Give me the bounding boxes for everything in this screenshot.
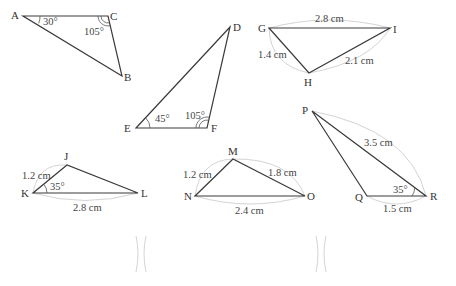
side-label-mo: 1.8 cm <box>268 167 297 178</box>
vertex-label-g: G <box>258 22 266 34</box>
vertex-label-p: P <box>302 104 308 116</box>
triangle-mno: M N O 1.2 cm 1.8 cm 2.4 cm <box>183 145 315 216</box>
triangle-abc: A C B 30° 105° <box>11 9 131 83</box>
vertex-label-k: K <box>21 187 29 199</box>
side-label-pr: 3.5 cm <box>364 137 393 148</box>
side-label-gi: 2.8 cm <box>315 13 344 24</box>
vertex-label-b: B <box>124 71 131 83</box>
vertex-label-n: N <box>184 190 192 202</box>
vertex-label-i: I <box>393 23 397 35</box>
side-label-kl: 2.8 cm <box>73 202 102 213</box>
group-separator-left <box>136 236 146 272</box>
side-label-gh: 1.4 cm <box>258 49 287 60</box>
vertex-label-m: M <box>228 145 238 157</box>
triangle-pqr: P Q R 3.5 cm 1.5 cm 35° <box>302 104 438 214</box>
vertex-label-o: O <box>307 190 315 202</box>
angle-label-e: 45° <box>155 113 170 124</box>
angle-arc-r <box>412 188 415 196</box>
vertex-label-e: E <box>124 122 131 134</box>
angle-label-f: 105° <box>185 110 205 121</box>
side-label-hi: 2.1 cm <box>345 55 374 66</box>
side-label-no: 2.4 cm <box>235 205 264 216</box>
triangle-ghi: G I H 2.8 cm 1.4 cm 2.1 cm <box>258 13 397 88</box>
angle-arc-e <box>146 118 151 128</box>
vertex-label-q: Q <box>355 191 363 203</box>
vertex-label-l: L <box>141 187 148 199</box>
vertex-label-r: R <box>430 190 438 202</box>
side-label-jk: 1.2 cm <box>22 170 51 181</box>
angle-label-k: 35° <box>50 181 65 192</box>
vertex-label-d: D <box>233 21 241 33</box>
triangle-def: D E F 45° 105° <box>124 21 241 134</box>
vertex-label-c: C <box>110 10 117 22</box>
vertex-label-a: A <box>11 9 19 21</box>
vertex-label-h: H <box>304 76 312 88</box>
triangle-jkl: J K L 1.2 cm 2.8 cm 35° <box>21 150 148 213</box>
angle-label-a: 30° <box>43 16 58 27</box>
vertex-label-j: J <box>64 150 69 162</box>
angle-label-c: 105° <box>84 26 104 37</box>
group-separator-right <box>316 236 326 272</box>
side-label-mn: 1.2 cm <box>183 169 212 180</box>
angle-label-r: 35° <box>393 184 408 195</box>
vertex-label-f: F <box>211 122 217 134</box>
triangle-diagram: A C B 30° 105° D E F 45° 105° G I H 2.8 … <box>0 0 456 286</box>
side-label-qr: 1.5 cm <box>383 203 412 214</box>
angle-arc-a <box>39 16 40 23</box>
angle-arc-k <box>44 184 47 193</box>
